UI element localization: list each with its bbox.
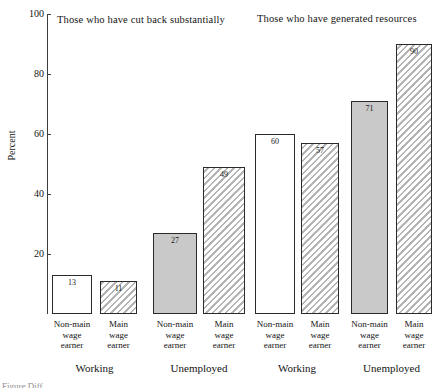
bar-value-label: 71 xyxy=(352,105,387,113)
category-label-line: earner xyxy=(292,340,348,351)
group-label: Unemployed xyxy=(347,362,436,374)
group-label: Working xyxy=(50,362,140,374)
bar-value-label: 57 xyxy=(302,147,338,155)
category-label-line: wage xyxy=(386,330,436,341)
category-label: Mainwageearner xyxy=(292,319,348,351)
bar: 60 xyxy=(255,134,295,314)
bar: 90 xyxy=(396,44,432,314)
category-label-line: earner xyxy=(196,340,252,351)
category-label-line: wage xyxy=(196,330,252,341)
category-label-line: wage xyxy=(91,330,147,341)
category-label-line: earner xyxy=(147,340,203,351)
category-label: Mainwageearner xyxy=(196,319,252,351)
plot-area: 1311274960577190 xyxy=(48,14,410,314)
y-tick-label: 80 xyxy=(4,69,44,79)
category-label-line: Main xyxy=(91,319,147,330)
figure-caption: Figure Diff xyxy=(2,381,43,388)
bar-value-label: 27 xyxy=(154,237,196,245)
group-label: Unemployed xyxy=(154,362,244,374)
category-label: Mainwageearner xyxy=(386,319,436,351)
y-tick-label: 40 xyxy=(4,189,44,199)
bar: 49 xyxy=(203,167,245,314)
category-label: Mainwageearner xyxy=(91,319,147,351)
category-label-line: Main xyxy=(386,319,436,330)
bar: 57 xyxy=(301,143,339,314)
category-label-line: wage xyxy=(292,330,348,341)
bar-value-label: 90 xyxy=(397,48,431,56)
bar: 27 xyxy=(153,233,197,314)
group-label: Working xyxy=(252,362,342,374)
category-label-line: earner xyxy=(386,340,436,351)
bar: 11 xyxy=(100,281,137,314)
y-tick-label: 100 xyxy=(4,9,44,19)
bar: 71 xyxy=(351,101,388,314)
bar-value-label: 11 xyxy=(101,285,136,293)
y-axis-label: Percent xyxy=(6,114,17,178)
category-label-line: Non-main xyxy=(147,319,203,330)
y-tick-label: 20 xyxy=(4,249,44,259)
category-label-line: wage xyxy=(147,330,203,341)
bar: 13 xyxy=(52,275,92,314)
bar-value-label: 49 xyxy=(204,171,244,179)
bar-value-label: 60 xyxy=(256,138,294,146)
y-tick-label: 60 xyxy=(4,129,44,139)
category-label: Non-mainwageearner xyxy=(147,319,203,351)
category-label-line: Main xyxy=(196,319,252,330)
category-label-line: earner xyxy=(91,340,147,351)
category-label-line: Main xyxy=(292,319,348,330)
bar-value-label: 13 xyxy=(53,279,91,287)
